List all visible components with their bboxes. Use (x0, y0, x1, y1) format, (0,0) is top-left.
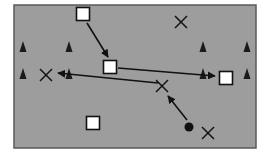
attacker-square-icon (87, 117, 100, 130)
attacker-square-icon (104, 61, 117, 74)
attacker-square-icon (77, 8, 90, 21)
ball-icon (185, 123, 194, 132)
attacker-square-icon (220, 72, 233, 85)
drill-diagram (0, 0, 259, 167)
